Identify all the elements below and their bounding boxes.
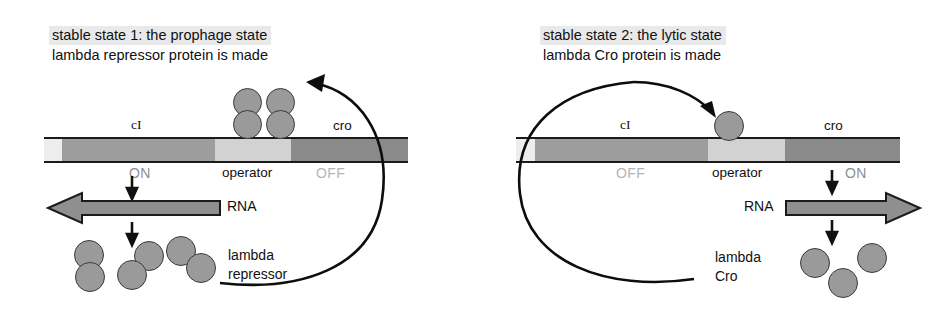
prophage-dna-operator-segment (215, 139, 291, 161)
lytic-cI-state: OFF (616, 165, 645, 182)
lytic-dna-cro-segment (785, 139, 900, 161)
panel-lytic-title: stable state 2: the lytic state (540, 26, 726, 45)
lytic-dna-bar (516, 139, 900, 161)
prophage-cro-state: OFF (316, 165, 345, 182)
prophage-dna-promoter-segment (44, 139, 62, 161)
lytic-cro-gene-label: cro (824, 118, 843, 134)
panel-prophage-title: stable state 1: the prophage state (49, 26, 271, 45)
lytic-cI-gene-label: cI (620, 117, 631, 133)
lytic-free-cro-3 (857, 243, 887, 273)
prophage-cI-state: ON (129, 165, 151, 182)
prophage-cI-gene-label: cI (131, 117, 142, 133)
lytic-operator-label: operator (712, 165, 762, 181)
lytic-rna-arrow (786, 193, 920, 223)
prophage-dna-cro-segment (291, 139, 408, 161)
prophage-rna-arrow (48, 193, 220, 223)
lytic-dna-promoter-segment (516, 139, 535, 161)
prophage-rna-label: RNA (227, 198, 257, 215)
panel-prophage-subtitle: lambda repressor protein is made (52, 47, 268, 64)
prophage-free-repressor-1 (74, 240, 104, 292)
lytic-cro-state: ON (845, 165, 867, 182)
figure-canvas: stable state 1: the prophage state lambd… (0, 0, 932, 309)
lytic-dna-operator-segment (708, 139, 785, 161)
lytic-rna-label: RNA (744, 198, 774, 215)
prophage-free-repressor-2 (117, 241, 165, 289)
prophage-dna-bar (44, 139, 408, 161)
lytic-feedback-arrowhead (700, 101, 716, 118)
lytic-feedback-curve-tail (634, 82, 712, 112)
prophage-dna-cI-segment (62, 139, 215, 161)
prophage-bound-repressor-dimer-1 (233, 88, 261, 138)
prophage-feedback-arrowhead (306, 74, 325, 92)
panel-lytic-subtitle: lambda Cro protein is made (543, 47, 721, 64)
prophage-free-repressor-3 (166, 236, 216, 284)
prophage-operator-label: operator (222, 165, 272, 181)
prophage-cro-gene-label: cro (333, 118, 352, 134)
lytic-feedback-curve (519, 82, 694, 282)
prophage-protein-label: lambda repressor (228, 246, 287, 284)
lytic-protein-label: lambda Cro (715, 248, 761, 286)
lytic-free-cro-1 (800, 248, 830, 278)
lytic-free-cro-2 (828, 268, 858, 298)
prophage-bound-repressor-dimer-2 (266, 88, 294, 138)
lytic-dna-cI-segment (535, 139, 708, 161)
lytic-bound-cro-monomer (714, 111, 744, 141)
